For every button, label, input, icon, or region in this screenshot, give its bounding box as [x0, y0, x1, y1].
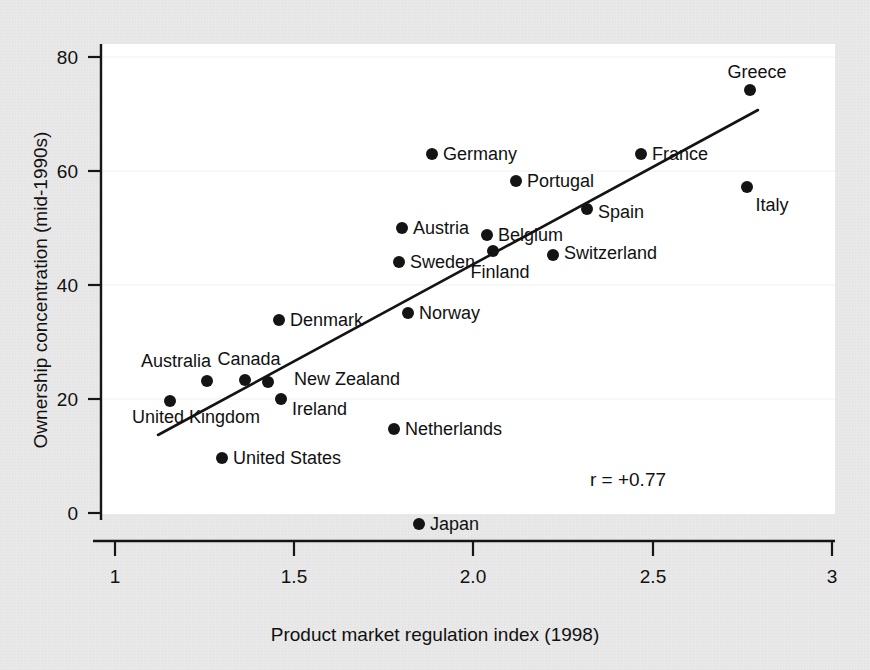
- x-tick-label-1: 1: [110, 567, 121, 586]
- y-axis-ticks: [88, 57, 101, 513]
- data-point-portugal[interactable]: [510, 175, 522, 187]
- data-point-austria[interactable]: [396, 222, 408, 234]
- data-point-denmark[interactable]: [273, 314, 285, 326]
- data-label-france: France: [652, 145, 708, 163]
- y-tick-label-0: 0: [46, 504, 78, 523]
- plot-canvas: [0, 0, 870, 670]
- data-point-norway[interactable]: [402, 307, 414, 319]
- data-label-italy: Italy: [755, 196, 788, 214]
- y-tick-label-20: 20: [46, 390, 78, 409]
- data-label-greece: Greece: [727, 63, 786, 81]
- data-label-united-states: United States: [233, 449, 341, 467]
- x-tick-label-1-5: 1.5: [281, 567, 307, 586]
- y-tick-label-40: 40: [46, 276, 78, 295]
- data-label-portugal: Portugal: [527, 172, 594, 190]
- data-point-united-states[interactable]: [216, 452, 228, 464]
- data-point-ireland[interactable]: [275, 393, 287, 405]
- data-point-canada[interactable]: [239, 374, 251, 386]
- data-point-germany[interactable]: [426, 148, 438, 160]
- data-label-finland: Finland: [470, 263, 529, 281]
- x-tick-label-3: 3: [827, 567, 838, 586]
- data-point-switzerland[interactable]: [547, 249, 559, 261]
- data-label-new-zealand: New Zealand: [294, 370, 400, 388]
- data-label-australia: Australia: [141, 352, 211, 370]
- data-label-japan: Japan: [430, 515, 479, 533]
- data-label-germany: Germany: [443, 145, 517, 163]
- plot-panel: [101, 44, 835, 514]
- data-point-greece[interactable]: [744, 84, 756, 96]
- data-point-united-kingdom[interactable]: [164, 395, 176, 407]
- correlation-annotation: r = +0.77: [590, 470, 666, 489]
- data-label-belgium: Belgium: [498, 226, 563, 244]
- y-tick-label-60: 60: [46, 162, 78, 181]
- data-label-switzerland: Switzerland: [564, 244, 657, 262]
- data-point-australia[interactable]: [201, 375, 213, 387]
- figure-container: Product market regulation index (1998) O…: [0, 0, 870, 670]
- x-axis-title: Product market regulation index (1998): [271, 625, 599, 644]
- data-label-canada: Canada: [217, 350, 280, 368]
- data-point-france[interactable]: [635, 148, 647, 160]
- y-tick-label-80: 80: [46, 48, 78, 67]
- data-point-spain[interactable]: [581, 203, 593, 215]
- x-tick-label-2-5: 2.5: [640, 567, 666, 586]
- data-point-belgium[interactable]: [481, 229, 493, 241]
- data-point-japan[interactable]: [413, 518, 425, 530]
- data-label-ireland: Ireland: [292, 400, 347, 418]
- data-label-netherlands: Netherlands: [405, 420, 502, 438]
- data-label-sweden: Sweden: [410, 253, 475, 271]
- data-point-italy[interactable]: [741, 181, 753, 193]
- data-point-finland[interactable]: [487, 245, 499, 257]
- data-label-denmark: Denmark: [290, 311, 363, 329]
- data-label-united-kingdom: United Kingdom: [132, 408, 260, 426]
- x-axis-ticks: [115, 541, 832, 556]
- data-label-austria: Austria: [413, 219, 469, 237]
- data-label-norway: Norway: [419, 304, 480, 322]
- data-label-spain: Spain: [598, 203, 644, 221]
- data-point-sweden[interactable]: [393, 256, 405, 268]
- x-tick-label-2-0: 2.0: [460, 567, 486, 586]
- data-point-new-zealand[interactable]: [262, 376, 274, 388]
- data-point-netherlands[interactable]: [388, 423, 400, 435]
